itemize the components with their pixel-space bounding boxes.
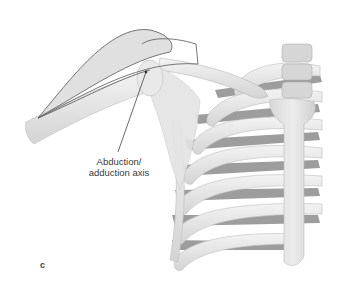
- shoulder-ribcage-illustration: [0, 0, 346, 291]
- vertebrae: [282, 44, 312, 98]
- axis-annotation-line2: adduction axis: [84, 167, 154, 178]
- anatomy-figure: Abduction/ adduction axis c: [0, 0, 346, 291]
- axis-point: [145, 71, 148, 74]
- panel-label: c: [40, 260, 45, 270]
- humeral-head: [137, 60, 163, 96]
- axis-annotation-line1: Abduction/: [84, 156, 154, 167]
- axis-annotation: Abduction/ adduction axis: [84, 156, 154, 178]
